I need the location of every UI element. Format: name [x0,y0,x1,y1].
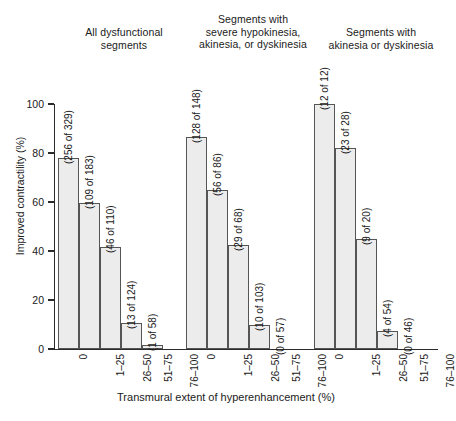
x-axis-tick-label: 51–75 [419,354,429,382]
x-axis-line [54,349,438,350]
bar [207,190,228,349]
y-axis-line [54,104,55,350]
bar-value-label: (46 of 110) [106,205,116,253]
bar-value-label: (56 of 86) [213,153,223,196]
x-axis-tick-label: 76–100 [318,354,328,387]
y-axis-tick [48,103,54,104]
bar-value-label: (29 of 68) [234,208,244,251]
x-axis-tick-label: 26–50 [142,354,152,382]
x-axis-tick-label: 0 [334,354,344,360]
x-axis-tick-label: 0 [206,354,216,360]
bar-value-label: (9 of 20) [362,208,372,245]
y-axis-tick-label: 60 [4,197,44,207]
x-axis-tick-label: 51–75 [163,354,173,382]
bar-value-label: (13 of 124) [127,281,137,329]
y-axis-tick-label: 0 [4,344,44,354]
bar-value-label: (0 of 46) [404,318,414,355]
panel-header-severe-hypokinesia: Segments with severe hypokinesia, akines… [186,13,320,51]
x-axis-tick-label: 26–50 [398,354,408,382]
x-axis-tick-label: 1–25 [244,354,254,376]
x-axis-tick-label: 1–25 [372,354,382,376]
bar-value-label: (1 of 58) [148,314,158,351]
bar [356,239,377,349]
y-axis-tick-label: 100 [4,99,44,109]
y-axis-tick [48,299,54,300]
bar [186,137,207,349]
panel-header-all-dysfunctional-segments: All dysfunctional segments [58,26,190,51]
bar [100,247,121,349]
y-axis-tick-label: 40 [4,246,44,256]
bar-value-label: (0 of 57) [276,318,286,355]
y-axis-tick [48,348,54,349]
bar-value-label: (4 of 54) [383,300,393,337]
x-axis-title: Transmural extent of hyperenhancement (%… [0,391,452,403]
bar [79,203,100,349]
bar-value-label: (10 of 103) [255,283,265,331]
bar-value-label: (23 of 28) [341,111,351,154]
y-axis-tick-label: 80 [4,148,44,158]
x-axis-tick-label: 76–100 [190,354,200,387]
bar [314,104,335,349]
y-axis-tick [48,201,54,202]
bar-value-label: (128 of 148) [192,89,202,143]
x-axis-tick-label: 51–75 [291,354,301,382]
y-axis-tick [48,152,54,153]
x-axis-tick-label: 0 [78,354,88,360]
bar-value-label: (109 of 183) [85,155,95,209]
bar [335,148,356,349]
bar [58,158,79,349]
x-axis-tick-label: 1–25 [116,354,126,376]
bar-value-label: (256 of 329) [64,110,74,164]
y-axis-tick [48,250,54,251]
bar [228,245,249,349]
x-axis-tick-label: 26–50 [270,354,280,382]
bar-value-label: (12 of 12) [320,67,330,110]
panel-header-akinesia-dyskinesia: Segments with akinesia or dyskinesia [314,26,448,51]
x-axis-tick-label: 76–100 [446,354,456,387]
y-axis-tick-label: 20 [4,295,44,305]
